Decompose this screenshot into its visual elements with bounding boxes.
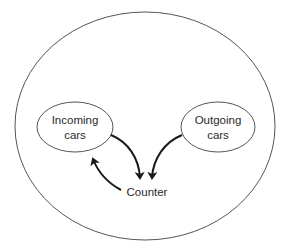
outer-boundary-ellipse: [15, 12, 275, 240]
diagram-canvas: Incoming cars Outgoing cars Counter: [0, 0, 286, 250]
node-incoming-cars: Incoming cars: [37, 102, 113, 152]
edge-incoming-to-counter-arrow: [111, 135, 140, 178]
outgoing-cars-ellipse: [181, 102, 255, 152]
incoming-cars-label-line2: cars: [64, 129, 86, 141]
counter-label: Counter: [127, 186, 168, 198]
outgoing-cars-label-line2: cars: [207, 129, 229, 141]
edge-counter-to-incoming-arrow: [93, 159, 121, 190]
incoming-cars-ellipse: [37, 102, 113, 152]
incoming-cars-label-line1: Incoming: [52, 114, 99, 126]
node-outgoing-cars: Outgoing cars: [181, 102, 255, 152]
edge-outgoing-to-counter-arrow: [152, 135, 182, 178]
outgoing-cars-label-line1: Outgoing: [195, 114, 242, 126]
